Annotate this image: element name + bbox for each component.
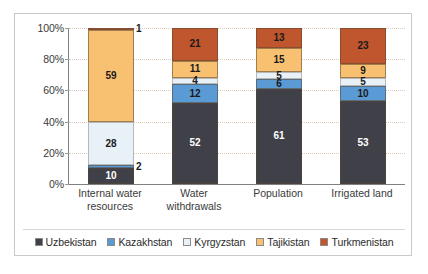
bar-segment-value: 9 — [360, 66, 366, 76]
legend-swatch-icon — [183, 238, 191, 246]
y-axis-tick-label: 80% — [43, 53, 64, 65]
chart-legend: UzbekistanKazakhstanKyrgyzstanTajikistan… — [15, 236, 413, 248]
bar-segment-value: 12 — [189, 89, 200, 99]
bar-segment-value: 53 — [357, 138, 368, 148]
bar-segment-value: 52 — [189, 138, 200, 148]
y-axis-tick-label: 20% — [43, 147, 64, 159]
plot-area-wrapper: 0%20%40%60%80%100% 159282102111412521315… — [15, 14, 413, 200]
legend-item-uzbekistan[interactable]: Uzbekistan — [35, 236, 97, 248]
x-axis-label-line: resources — [70, 200, 150, 213]
bar-segment-turkmenistan[interactable]: 21 — [172, 28, 218, 61]
bar-segment-value: 6 — [276, 79, 282, 89]
bar-segment-kyrgyzstan[interactable]: 5 — [340, 78, 386, 86]
legend-swatch-icon — [320, 238, 328, 246]
bar-group: 159282102111412521315566123951053 — [69, 28, 405, 184]
bar-segment-value: 10 — [357, 89, 368, 99]
x-axis-label-line: Population — [238, 187, 318, 200]
y-axis-tick-label: 100% — [38, 22, 64, 34]
bar-segment-value: 1 — [136, 24, 142, 34]
bar-slot: 13155661 — [237, 28, 321, 184]
stacked-bar[interactable]: 23951053 — [340, 28, 386, 184]
bar-segment-value: 21 — [189, 39, 200, 49]
bar-segment-tajikistan[interactable]: 59 — [88, 30, 134, 122]
bar-segment-uzbekistan[interactable]: 53 — [340, 101, 386, 184]
x-axis: Internal waterresourcesWater withdrawals… — [68, 187, 404, 213]
bar-segment-uzbekistan[interactable]: 61 — [256, 89, 302, 184]
bar-segment-value: 15 — [273, 55, 284, 65]
x-axis-label: Irrigated land — [320, 187, 404, 213]
y-axis-tick-label: 40% — [43, 116, 64, 128]
legend-swatch-icon — [35, 238, 43, 246]
legend-label: Kazakhstan — [118, 236, 172, 248]
plot-area: 159282102111412521315566123951053 — [68, 28, 405, 185]
legend-item-kazakhstan[interactable]: Kazakhstan — [107, 236, 172, 248]
x-axis-label: Water withdrawals — [152, 187, 236, 213]
bar-segment-value: 4 — [192, 76, 198, 86]
y-axis-tickmark — [65, 184, 69, 185]
y-axis-tick-label: 60% — [43, 84, 64, 96]
bar-segment-value: 13 — [273, 33, 284, 43]
stacked-bar[interactable]: 13155661 — [256, 28, 302, 184]
bar-segment-value: 61 — [273, 131, 284, 141]
legend-item-kyrgyzstan[interactable]: Kyrgyzstan — [183, 236, 245, 248]
legend-swatch-icon — [107, 238, 115, 246]
y-axis-tick-label: 0% — [49, 178, 64, 190]
legend-label: Uzbekistan — [46, 236, 97, 248]
x-axis-label: Internal waterresources — [68, 187, 152, 213]
bar-segment-uzbekistan[interactable]: 52 — [172, 103, 218, 184]
y-axis: 0%20%40%60%80%100% — [21, 28, 67, 184]
bar-segment-kyrgyzstan[interactable]: 28 — [88, 122, 134, 166]
bar-segment-turkmenistan[interactable]: 13 — [256, 28, 302, 48]
legend-label: Tajikistan — [267, 236, 309, 248]
bar-segment-value: 28 — [105, 139, 116, 149]
bar-segment-kazakhstan[interactable]: 6 — [256, 79, 302, 88]
legend-item-turkmenistan[interactable]: Turkmenistan — [320, 236, 393, 248]
legend-label: Kyrgyzstan — [194, 236, 245, 248]
bar-segment-value: 2 — [136, 162, 142, 172]
x-axis-label-line: Water withdrawals — [154, 187, 234, 213]
chart-frame: 0%20%40%60%80%100% 159282102111412521315… — [14, 13, 412, 256]
bar-segment-uzbekistan[interactable]: 10 — [88, 168, 134, 184]
bar-segment-value: 5 — [360, 77, 366, 87]
bar-segment-value: 59 — [105, 71, 116, 81]
x-axis-label: Population — [236, 187, 320, 213]
bar-segment-value: 23 — [357, 41, 368, 51]
bar-segment-value: 10 — [105, 171, 116, 181]
stacked-bar[interactable]: 15928210 — [88, 28, 134, 184]
bar-segment-value: 11 — [190, 64, 201, 74]
bar-slot: 15928210 — [69, 28, 153, 184]
stacked-bar[interactable]: 211141252 — [172, 28, 218, 184]
x-axis-label-line: Internal water — [70, 187, 150, 200]
legend-swatch-icon — [256, 238, 264, 246]
bar-segment-turkmenistan[interactable]: 23 — [340, 28, 386, 64]
legend-label: Turkmenistan — [331, 236, 393, 248]
bar-segment-kazakhstan[interactable]: 12 — [172, 84, 218, 103]
x-axis-label-line: Irrigated land — [322, 187, 402, 200]
bar-slot: 23951053 — [321, 28, 405, 184]
bar-segment-kazakhstan[interactable]: 10 — [340, 86, 386, 102]
legend-divider — [23, 229, 405, 230]
legend-item-tajikistan[interactable]: Tajikistan — [256, 236, 309, 248]
bar-segment-tajikistan[interactable]: 15 — [256, 48, 302, 71]
bar-slot: 211141252 — [153, 28, 237, 184]
